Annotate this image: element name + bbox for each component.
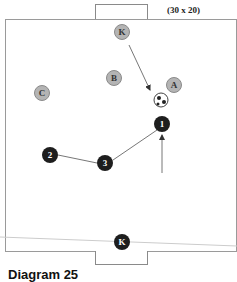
- player-keeper-top: K: [114, 24, 130, 40]
- player-1: 1: [154, 116, 170, 132]
- player-a: A: [166, 77, 182, 93]
- player-2: 2: [42, 147, 58, 163]
- player-keeper-bottom: K: [114, 234, 130, 250]
- ball-icon: [154, 93, 168, 107]
- player-b: B: [106, 70, 122, 86]
- player-3: 3: [97, 155, 113, 171]
- diagram-caption: Diagram 25: [8, 267, 78, 282]
- player-c: C: [34, 85, 50, 101]
